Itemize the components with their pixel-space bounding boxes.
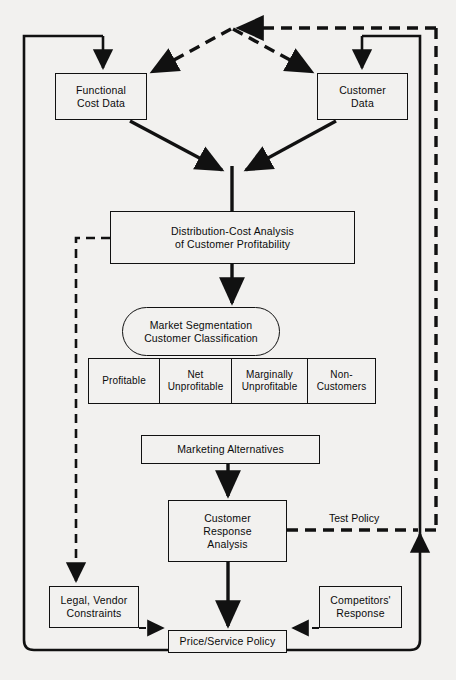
node-functional-cost-data-line2: Cost Data	[77, 97, 125, 110]
node-functional-cost-data-line1: Functional	[76, 84, 126, 97]
classification-cell-marginally-unprofitable[interactable]: Marginally Unprofitable	[232, 358, 308, 404]
classification-cell-non-customers-line1: Non-	[330, 369, 352, 382]
node-market-segmentation-line2: Customer Classification	[144, 332, 258, 345]
node-distribution-cost-analysis-line2: of Customer Profitability	[175, 238, 290, 251]
edge-dashed-distribution-cost-to-legal	[76, 238, 110, 581]
classification-cell-profitable-line1: Profitable	[102, 375, 146, 388]
classification-cell-net-unprofitable-line1: Net	[187, 369, 203, 382]
node-marketing-alternatives-line1: Marketing Alternatives	[177, 443, 284, 456]
node-marketing-alternatives[interactable]: Marketing Alternatives	[141, 435, 320, 464]
classification-cell-profitable[interactable]: Profitable	[88, 358, 160, 404]
node-distribution-cost-analysis[interactable]: Distribution-Cost Analysis of Customer P…	[110, 211, 355, 264]
node-legal-vendor-constraints-line1: Legal, Vendor	[61, 594, 128, 607]
node-legal-vendor-constraints-line2: Constraints	[67, 607, 122, 620]
node-customer-response-analysis-line2: Response	[203, 525, 251, 538]
classification-cell-non-customers-line2: Customers	[317, 381, 367, 394]
edge-dashed-apex-to-functional-cost	[152, 29, 231, 72]
edge-functional-cost-to-analysis	[130, 121, 222, 170]
node-customer-response-analysis-line1: Customer	[204, 512, 251, 525]
classification-cell-marginally-unprofitable-line1: Marginally	[246, 369, 293, 382]
classification-cell-net-unprofitable[interactable]: Net Unprofitable	[160, 358, 232, 404]
classification-cell-non-customers[interactable]: Non- Customers	[308, 358, 376, 404]
node-customer-data-line2: Data	[351, 97, 374, 110]
node-competitors-response-line2: Response	[336, 607, 384, 620]
node-price-service-policy-line1: Price/Service Policy	[180, 635, 276, 648]
node-competitors-response-line1: Competitors'	[330, 594, 390, 607]
node-market-segmentation-line1: Market Segmentation	[150, 319, 253, 332]
edge-right-loop-top	[287, 36, 420, 650]
node-legal-vendor-constraints[interactable]: Legal, Vendor Constraints	[49, 586, 139, 628]
node-customer-data-line1: Customer	[339, 84, 386, 97]
edge-label-test-policy: Test Policy	[327, 512, 381, 524]
classification-cell-net-unprofitable-line2: Unprofitable	[168, 381, 224, 394]
node-distribution-cost-analysis-line1: Distribution-Cost Analysis	[171, 225, 294, 238]
flowchart-diagram: Functional Cost Data Customer Data Distr…	[0, 0, 456, 680]
node-functional-cost-data[interactable]: Functional Cost Data	[55, 73, 147, 120]
classification-cell-marginally-unprofitable-line2: Unprofitable	[242, 381, 298, 394]
node-customer-response-analysis[interactable]: Customer Response Analysis	[168, 500, 287, 562]
node-customer-response-analysis-line3: Analysis	[207, 538, 247, 551]
node-market-segmentation[interactable]: Market Segmentation Customer Classificat…	[122, 307, 280, 356]
node-customer-data[interactable]: Customer Data	[317, 73, 408, 120]
node-price-service-policy[interactable]: Price/Service Policy	[168, 630, 287, 653]
edge-customer-data-to-analysis	[246, 121, 336, 170]
node-competitors-response[interactable]: Competitors' Response	[319, 586, 402, 628]
edge-dashed-apex-to-customer-data	[233, 29, 312, 72]
